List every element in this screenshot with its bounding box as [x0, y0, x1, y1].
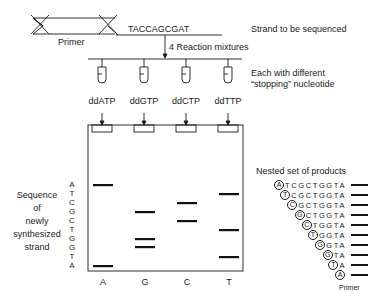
- row-sequence: GTA: [326, 241, 346, 250]
- band-mark: [351, 184, 368, 186]
- seq-letter: C: [68, 199, 76, 207]
- band-mark: [351, 194, 368, 196]
- caption-line: synthesized: [4, 229, 70, 239]
- gel-bands: [93, 184, 239, 267]
- band-mark: [351, 274, 368, 276]
- row-sequence: GCTGGTA: [298, 201, 346, 210]
- reagent-ddgtp: ddGTP: [126, 96, 162, 106]
- nested-row: ATCGCTGGTA: [274, 180, 368, 190]
- seq-letter: A: [68, 262, 76, 270]
- seq-letter: C: [68, 217, 76, 225]
- tube-caption-line1: Each with different: [251, 68, 325, 78]
- nested-row: CTGGTA: [302, 220, 368, 230]
- well-arrows: [100, 113, 230, 125]
- band-mark: [351, 204, 368, 206]
- circled-base: G: [295, 210, 305, 220]
- band-mark: [351, 244, 368, 246]
- row-sequence: TA: [334, 251, 346, 260]
- circled-base: A: [335, 270, 345, 280]
- caption-line: strand: [4, 242, 70, 252]
- row-sequence: A: [339, 261, 346, 270]
- band-mark: [351, 214, 368, 216]
- circled-base: C: [302, 220, 312, 230]
- circled-base: G: [323, 250, 333, 260]
- seq-letter: T: [68, 226, 76, 234]
- band-mark: [351, 264, 368, 266]
- tube-caption-line2: “stopping” nucleotide: [251, 79, 335, 89]
- row-sequence: GGTA: [319, 231, 346, 240]
- caption-line: of: [4, 203, 70, 213]
- seq-letter: G: [68, 235, 76, 243]
- seq-letter: A: [68, 181, 76, 189]
- primer-strand-graphic: [31, 15, 222, 35]
- nested-row: TA: [328, 260, 368, 270]
- circled-base: A: [274, 180, 284, 190]
- template-sequence: TACCAGCGAT: [128, 24, 189, 34]
- circled-base: T: [308, 230, 318, 240]
- nested-primer-label: Primer: [339, 283, 360, 293]
- circled-base: C: [287, 200, 297, 210]
- nested-row: GTA: [323, 250, 368, 260]
- nested-row: TGGTA: [308, 230, 368, 240]
- reagent-ddatp: ddATP: [84, 96, 120, 106]
- nested-row: GCTGGTA: [295, 210, 368, 220]
- reagent-ddttp: ddTTP: [210, 96, 246, 106]
- reagent-ddctp: ddCTP: [168, 96, 204, 106]
- band-mark: [351, 234, 368, 236]
- primer-label: Primer: [58, 37, 85, 47]
- nested-row: A: [335, 270, 368, 280]
- circled-base: T: [328, 260, 338, 270]
- nested-row: TCGCTGGTA: [280, 190, 368, 200]
- lane-label-a: A: [95, 277, 111, 287]
- gel-box: [88, 125, 243, 271]
- band-mark: [351, 224, 368, 226]
- row-sequence: TCGCTGGTA: [285, 181, 346, 190]
- lane-label-g: G: [137, 277, 153, 287]
- seq-letter: T: [68, 190, 76, 198]
- row-sequence: TGGTA: [313, 221, 346, 230]
- seq-letter: G: [68, 244, 76, 252]
- caption-line: newly: [4, 216, 70, 226]
- circled-base: G: [315, 240, 325, 250]
- nested-row: GGTA: [315, 240, 368, 250]
- circled-base: T: [280, 190, 290, 200]
- row-sequence: CGCTGGTA: [291, 191, 346, 200]
- reaction-label: 4 Reaction mixtures: [169, 42, 249, 52]
- caption-line: Sequence: [4, 190, 70, 200]
- tube-graphics: [98, 59, 232, 83]
- row-sequence: CTGGTA: [306, 211, 346, 220]
- lane-label-c: C: [179, 277, 195, 287]
- seq-letter: T: [68, 253, 76, 261]
- nested-title: Nested set of products: [256, 166, 346, 176]
- band-mark: [351, 254, 368, 256]
- template-caption: Strand to be sequenced: [251, 24, 347, 34]
- seq-letter: G: [68, 208, 76, 216]
- nested-row: CGCTGGTA: [287, 200, 368, 210]
- lane-label-t: T: [221, 277, 237, 287]
